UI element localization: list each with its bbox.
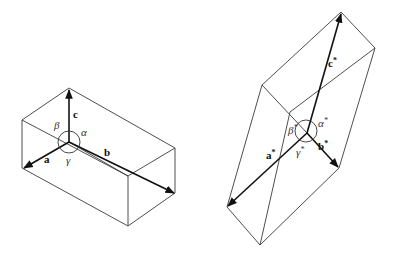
label-beta: β — [53, 119, 60, 131]
reciprocal-cell: c* a* b* β* α* γ* — [227, 12, 375, 245]
label-a-star: a* — [266, 148, 276, 161]
label-alpha: α — [81, 126, 87, 138]
label-b-star: b* — [318, 139, 328, 152]
label-gamma: γ — [66, 154, 71, 166]
label-alpha-star: α* — [318, 116, 328, 129]
label-b: b — [104, 146, 110, 158]
direct-cell: c a b β α γ — [22, 88, 175, 226]
reciprocal-cell-edges — [227, 12, 375, 245]
unit-cell-diagram: c a b β α γ c* a* b* β* α* γ* — [0, 0, 393, 255]
angle-circle-star — [295, 120, 317, 142]
vector-b — [69, 142, 174, 193]
vector-a-star — [228, 133, 307, 206]
label-beta-star: β* — [287, 123, 297, 136]
label-c-star: c* — [328, 56, 337, 69]
label-c: c — [73, 108, 78, 120]
label-a: a — [44, 153, 50, 165]
label-gamma-star: γ* — [296, 145, 304, 158]
